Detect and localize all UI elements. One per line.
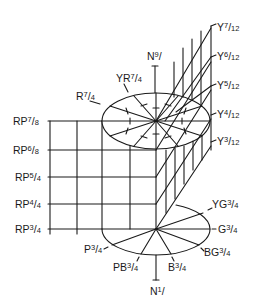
label-g: G3/4 [218,223,237,235]
label-p: P3/4 [84,243,102,255]
label-bg: BG3/4 [204,246,230,258]
label-n1: N1/ [150,285,165,297]
munsell-diagram: N9/ R7/4 YR7/4 Y7/12 Y6/12 Y5/12 Y4/12 Y… [0,0,253,304]
label-y7: Y7/12 [217,21,239,33]
label-y4: Y4/12 [217,108,239,120]
label-rp4: RP4/4 [15,198,41,210]
labels: N9/ R7/4 YR7/4 Y7/12 Y6/12 Y5/12 Y4/12 Y… [13,21,239,297]
label-b: B3/4 [168,261,186,273]
label-pb: PB3/4 [113,261,138,273]
bottom-ellipse-spokes [104,208,216,261]
label-yg: YG3/4 [212,198,238,210]
label-y3: Y3/12 [217,135,239,147]
label-rp3: RP3/4 [15,223,41,235]
label-yr: YR7/4 [116,72,142,84]
label-y5: Y5/12 [217,79,239,91]
label-rp6: RP6/8 [13,144,39,156]
label-y6: Y6/12 [217,50,239,62]
label-rp5: RP5/4 [15,171,41,183]
label-n9: N9/ [147,50,162,62]
label-rp7: RP7/8 [13,115,39,127]
label-r: R7/4 [76,90,95,102]
